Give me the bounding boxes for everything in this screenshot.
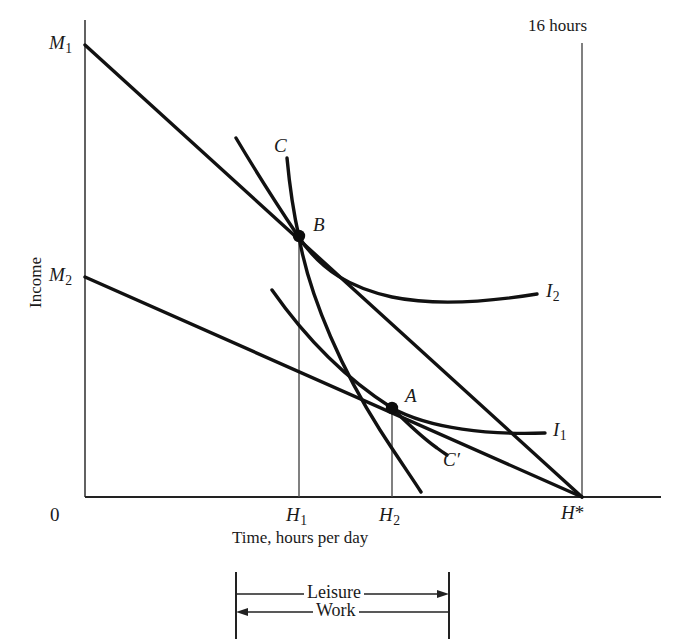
- h1-letter: H: [286, 504, 300, 525]
- bracket-label-leisure: Leisure: [304, 583, 364, 601]
- x-tick-label-h1: H1: [286, 505, 307, 528]
- origin-label: 0: [50, 505, 60, 524]
- curve-label-i2: I2: [546, 281, 560, 304]
- x-tick-label-hstar: H*: [561, 503, 584, 522]
- compensated-curve-c-prime: [392, 408, 447, 455]
- compensated-curve-c: [287, 158, 421, 492]
- h2-subscript: 2: [393, 513, 400, 528]
- x-tick-label-h2: H2: [379, 505, 400, 528]
- m1-subscript: 1: [65, 41, 72, 56]
- m2-letter: M: [49, 264, 65, 285]
- hstar-letter: H: [561, 502, 575, 523]
- indifference-curve-i1: [272, 290, 545, 433]
- m1-letter: M: [49, 32, 65, 53]
- point-a-marker: [386, 402, 398, 414]
- economics-labor-supply-diagram: [0, 0, 673, 644]
- curve-label-c: C: [274, 136, 287, 155]
- y-intercept-label-m2: M2: [49, 265, 72, 288]
- indifference-curve-i2: [236, 138, 537, 302]
- figure-canvas: Income Time, hours per day 0 16 hours M1…: [0, 0, 673, 644]
- curve-label-i1: I1: [553, 420, 567, 443]
- budget-line-m2: [85, 277, 582, 497]
- point-label-a: A: [405, 386, 417, 405]
- point-b-marker: [293, 230, 305, 242]
- bracket-label-work: Work: [313, 601, 359, 619]
- point-label-b: B: [313, 215, 325, 234]
- h1-subscript: 1: [300, 513, 307, 528]
- y-axis-label: Income: [26, 257, 46, 308]
- h2-letter: H: [379, 504, 393, 525]
- m2-subscript: 2: [65, 273, 72, 288]
- hstar-asterisk: *: [575, 502, 585, 523]
- i2-subscript: 2: [552, 289, 559, 304]
- y-intercept-label-m1: M1: [49, 33, 72, 56]
- curve-label-c-prime: C′: [443, 450, 460, 469]
- x-axis-label: Time, hours per day: [232, 529, 368, 546]
- work-arrowhead-icon: [236, 608, 248, 616]
- i1-subscript: 1: [559, 428, 566, 443]
- sixteen-hours-note: 16 hours: [528, 17, 587, 34]
- leisure-arrowhead-icon: [437, 590, 449, 598]
